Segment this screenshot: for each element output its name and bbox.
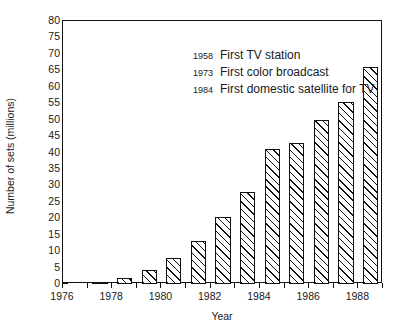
x-axis-tick-label: 1976 xyxy=(39,290,85,303)
x-axis-tick-label: 1980 xyxy=(137,290,183,303)
x-axis-tick-mark xyxy=(308,283,309,288)
x-axis-tick-mark xyxy=(62,283,63,288)
x-axis-tick-labels: 1976197819801982198419861988 xyxy=(62,290,382,304)
y-axis-tick-label: 70 xyxy=(34,48,60,58)
y-axis-tick-label: 15 xyxy=(34,229,60,239)
annotation-year: 1958 xyxy=(193,51,220,61)
y-axis-tick-label: 20 xyxy=(34,212,60,222)
bar xyxy=(142,270,157,284)
bar xyxy=(215,217,230,284)
x-axis-tick-mark xyxy=(185,283,186,288)
y-axis-tick-label: 0 xyxy=(34,278,60,288)
bar xyxy=(289,143,304,284)
x-axis-tick-mark xyxy=(333,283,334,288)
annotation-text: First TV station xyxy=(220,48,300,62)
x-axis-tick-label: 1978 xyxy=(88,290,134,303)
y-axis-tick-label: 60 xyxy=(34,81,60,91)
y-axis-tick-labels: 05101520253035404550556065707580 xyxy=(30,20,60,283)
annotation-year: 1973 xyxy=(193,68,220,78)
y-axis-tick-label: 50 xyxy=(34,114,60,124)
x-axis-title: Year xyxy=(62,310,382,322)
y-axis-tick-label: 5 xyxy=(34,262,60,272)
bar xyxy=(240,192,255,284)
x-axis-tick-label: 1988 xyxy=(334,290,380,303)
annotation-text: First color broadcast xyxy=(220,65,329,79)
x-axis-tick-mark xyxy=(382,283,383,288)
y-axis-tick-label: 80 xyxy=(34,15,60,25)
bar xyxy=(314,120,329,284)
y-axis-tick-label: 40 xyxy=(34,147,60,157)
y-axis-tick-label: 75 xyxy=(34,31,60,41)
y-axis-tick-label: 45 xyxy=(34,130,60,140)
annotation-text: First domestic satellite for TV xyxy=(220,82,375,96)
x-axis-tick-mark xyxy=(284,283,285,288)
x-axis-tick-mark xyxy=(136,283,137,288)
annotation-row: 1973First color broadcast xyxy=(193,65,407,82)
annotation-year: 1984 xyxy=(193,85,220,95)
x-axis-tick-label: 1984 xyxy=(236,290,282,303)
x-axis-tick-mark xyxy=(160,283,161,288)
annotation-row: 1958First TV station xyxy=(193,48,407,65)
bar xyxy=(363,67,378,284)
x-axis-tick-label: 1986 xyxy=(285,290,331,303)
bar-chart-figure: Number of sets (millions) 05101520253035… xyxy=(0,0,407,335)
bar xyxy=(338,102,353,284)
y-axis-title: Number of sets (millions) xyxy=(2,16,18,296)
y-axis-tick-label: 55 xyxy=(34,97,60,107)
annotation-list: 1958First TV station1973First color broa… xyxy=(193,48,407,99)
x-axis-tick-mark xyxy=(234,283,235,288)
x-axis-tick-mark xyxy=(210,283,211,288)
x-axis-tick-label: 1982 xyxy=(187,290,233,303)
bar xyxy=(166,258,181,284)
bar xyxy=(191,241,206,284)
y-axis-tick-label: 25 xyxy=(34,196,60,206)
x-axis-tick-mark xyxy=(111,283,112,288)
bar xyxy=(265,149,280,284)
x-axis-tick-mark xyxy=(87,283,88,288)
y-axis-tick-label: 10 xyxy=(34,245,60,255)
x-axis-tick-mark xyxy=(259,283,260,288)
y-axis-tick-label: 30 xyxy=(34,179,60,189)
annotation-row: 1984First domestic satellite for TV xyxy=(193,82,407,99)
plot-area: 1958First TV station1973First color broa… xyxy=(62,20,382,283)
x-axis-tick-mark xyxy=(357,283,358,288)
y-axis-tick-label: 35 xyxy=(34,163,60,173)
y-axis-tick-label: 65 xyxy=(34,64,60,74)
